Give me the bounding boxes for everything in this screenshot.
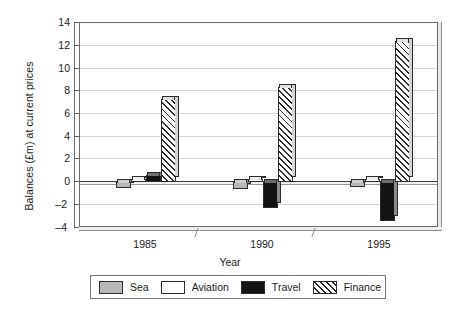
plot-frame-depth-bottom: [79, 227, 442, 231]
x-tick-label-1995: 1995: [344, 238, 414, 250]
y-tick-label: 14: [44, 17, 70, 27]
bar-travel-1990[interactable]: [263, 182, 278, 208]
legend-swatch-finance-icon: [313, 281, 337, 294]
plot-frame-depth-right: [438, 22, 442, 227]
x-axis-separator: [310, 228, 317, 237]
legend-label-travel: Travel: [272, 281, 301, 293]
x-axis-separator: [193, 228, 200, 237]
y-axis-title: Balances (£m) at current prices: [23, 21, 35, 251]
bar-sea-1995[interactable]: [350, 182, 365, 187]
y-tick-label: 8: [44, 85, 70, 95]
legend-swatch-aviation-icon: [161, 281, 185, 294]
bar-travel-1995[interactable]: [380, 182, 395, 221]
legend-swatch-sea-icon: [99, 281, 123, 294]
y-tick-label: 4: [44, 131, 70, 141]
x-axis-title: Year: [0, 256, 460, 268]
x-tick-label-1990: 1990: [227, 238, 297, 250]
bar-top: [162, 96, 175, 100]
bar-top: [264, 179, 277, 183]
bar-top: [381, 179, 394, 183]
y-axis-spine: [74, 22, 75, 227]
bar-side: [175, 96, 179, 177]
bar-face: [351, 183, 364, 186]
y-tick-label: –2: [41, 199, 67, 209]
bar-aviation-1985[interactable]: [131, 179, 146, 182]
gridline-2: [80, 158, 437, 159]
y-tick-label: 12: [44, 40, 70, 50]
x-tick-label-1985: 1985: [110, 238, 180, 250]
bar-face: [117, 183, 130, 187]
bar-finance-1995[interactable]: [395, 41, 410, 182]
y-tick-label: 0: [44, 176, 70, 186]
gridline-4: [80, 136, 437, 137]
bar-face: [249, 180, 262, 181]
bar-sea-1985[interactable]: [116, 182, 131, 188]
legend-swatch-travel-icon: [241, 281, 265, 294]
y-tick-label: 6: [44, 108, 70, 118]
bar-face: [234, 183, 247, 188]
bar-top: [117, 179, 130, 183]
bar-aviation-1995[interactable]: [365, 179, 380, 182]
bar-top: [396, 38, 409, 42]
bar-face: [147, 176, 160, 181]
legend-item-travel[interactable]: Travel: [233, 281, 305, 294]
bar-face: [381, 183, 394, 220]
bar-face: [132, 180, 145, 181]
bar-finance-1985[interactable]: [161, 99, 176, 182]
bar-top: [132, 176, 145, 180]
legend-label-finance: Finance: [344, 281, 381, 293]
bar-side: [409, 38, 413, 177]
gridline-10: [80, 68, 437, 69]
bar-face: [366, 180, 379, 181]
gridline-6: [80, 113, 437, 114]
legend-label-aviation: Aviation: [192, 281, 229, 293]
gridline-8: [80, 90, 437, 91]
bar-side: [277, 179, 281, 203]
bar-side: [394, 179, 398, 216]
bar-side: [262, 176, 266, 178]
y-tick-label: 10: [44, 63, 70, 73]
y-tick-label: 2: [44, 153, 70, 163]
bar-top: [279, 84, 292, 88]
bar-face: [264, 183, 277, 207]
bar-chart: Balances (£m) at current prices 14 12 10…: [0, 0, 460, 315]
bar-side: [379, 176, 383, 178]
bar-face: [279, 88, 292, 181]
chart-legend: Sea Aviation Travel Finance: [90, 275, 386, 299]
gridline-12: [80, 45, 437, 46]
bar-top: [234, 179, 247, 183]
legend-item-finance[interactable]: Finance: [305, 281, 385, 294]
bar-sea-1990[interactable]: [233, 182, 248, 189]
y-tick-label: –4: [41, 222, 67, 232]
bar-side: [292, 84, 296, 177]
bar-finance-1990[interactable]: [278, 87, 293, 182]
bar-travel-1985[interactable]: [146, 175, 161, 182]
bar-top: [147, 172, 160, 176]
legend-label-sea: Sea: [130, 281, 149, 293]
legend-item-aviation[interactable]: Aviation: [153, 281, 233, 294]
bar-face: [162, 100, 175, 181]
bar-aviation-1990[interactable]: [248, 179, 263, 182]
legend-item-sea[interactable]: Sea: [91, 281, 153, 294]
bar-top: [351, 179, 364, 183]
bar-face: [396, 42, 409, 181]
plot-area: [79, 22, 438, 227]
bar-top: [249, 176, 262, 180]
bar-top: [366, 176, 379, 180]
